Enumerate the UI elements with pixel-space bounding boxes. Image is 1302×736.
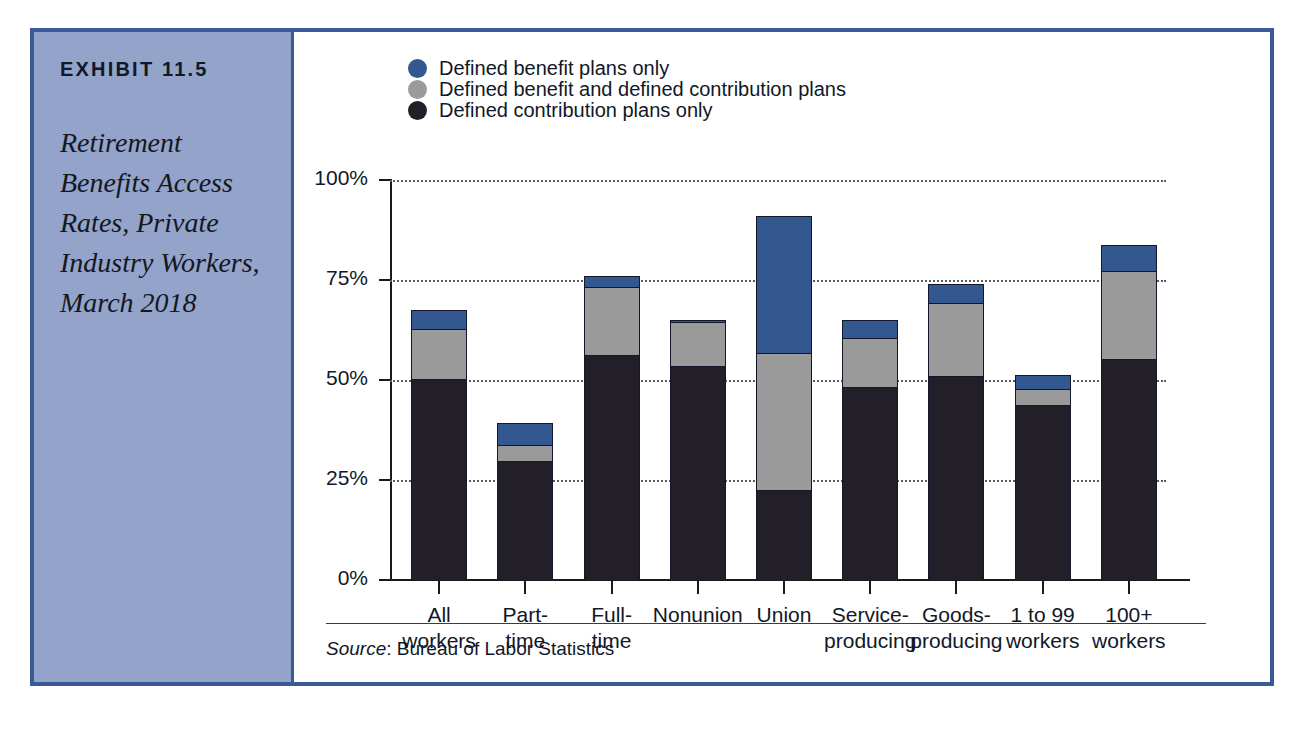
bar-segment-dc: [757, 490, 811, 580]
exhibit-frame: EXHIBIT 11.5 Retirement Benefits Access …: [30, 28, 1274, 686]
bar-segment-db: [412, 311, 466, 329]
y-tick-label: 75%: [298, 266, 368, 290]
bars-layer: [390, 180, 1166, 580]
bar-goods-producing[interactable]: [928, 284, 984, 580]
exhibit-title: Retirement Benefits Access Rates, Privat…: [60, 123, 267, 323]
x-label-line: 100+: [1054, 602, 1204, 628]
source-divider: [326, 623, 1206, 625]
legend-label: Defined benefit plans only: [439, 57, 669, 80]
bar-segment-db: [498, 424, 552, 445]
x-tick-mark: [611, 580, 613, 594]
bar-segment-both: [498, 445, 552, 461]
y-tick-label: 100%: [298, 166, 368, 190]
plot-area: 0%25%50%75%100% AllworkersPart-timeFull-…: [390, 180, 1166, 580]
bar-segment-dc: [585, 355, 639, 580]
bar-segment-db: [585, 277, 639, 287]
y-tick-mark: [379, 179, 390, 181]
bar-segment-db: [757, 217, 811, 353]
bar-segment-db: [1016, 376, 1070, 389]
exhibit-sidebar: EXHIBIT 11.5 Retirement Benefits Access …: [34, 32, 294, 682]
x-tick-mark: [783, 580, 785, 594]
bar-1-to-99-workers[interactable]: [1015, 375, 1071, 580]
legend-label: Defined benefit and defined contribution…: [439, 78, 846, 101]
bar-service-producing[interactable]: [842, 320, 898, 580]
x-label-line: workers: [1054, 628, 1204, 654]
bar-segment-both: [929, 303, 983, 376]
bar-segment-both: [757, 353, 811, 490]
legend-swatch-blue-circle-icon: [408, 59, 427, 78]
source-text: Bureau of Labor Statistics: [397, 638, 615, 659]
legend-label: Defined contribution plans only: [439, 99, 713, 122]
x-tick-mark: [697, 580, 699, 594]
source-label: Source: [326, 638, 386, 659]
bar-segment-dc: [412, 379, 466, 580]
legend-item-defined-contribution-only: Defined contribution plans only: [408, 100, 846, 121]
x-tick-mark: [869, 580, 871, 594]
legend-item-defined-benefit-only: Defined benefit plans only: [408, 58, 846, 79]
x-tick-mark: [955, 580, 957, 594]
y-tick-label: 25%: [298, 466, 368, 490]
bar-part-time[interactable]: [497, 423, 553, 580]
bar-segment-db: [929, 285, 983, 303]
bar-segment-db: [843, 321, 897, 338]
source-separator: :: [386, 638, 397, 659]
x-axis-label-100-workers: 100+workers: [1054, 602, 1204, 654]
bar-segment-db: [1102, 246, 1156, 271]
y-tick-mark: [379, 379, 390, 381]
legend-swatch-black-circle-icon: [408, 101, 427, 120]
y-tick-label: 0%: [298, 566, 368, 590]
bar-segment-both: [671, 322, 725, 366]
bar-segment-both: [1102, 271, 1156, 360]
bar-100-workers[interactable]: [1101, 245, 1157, 580]
bar-all-workers[interactable]: [411, 310, 467, 580]
bar-union[interactable]: [756, 216, 812, 580]
x-tick-mark: [1128, 580, 1130, 594]
bar-segment-dc: [671, 366, 725, 580]
bar-segment-dc: [1102, 359, 1156, 580]
chart-panel: Defined benefit plans only Defined benef…: [294, 32, 1270, 682]
bar-segment-both: [843, 338, 897, 387]
chart-legend: Defined benefit plans only Defined benef…: [408, 58, 846, 121]
bar-full-time[interactable]: [584, 276, 640, 580]
exhibit-number: EXHIBIT 11.5: [60, 58, 267, 81]
y-tick-mark: [379, 479, 390, 481]
bar-segment-dc: [929, 376, 983, 581]
y-tick-mark: [379, 279, 390, 281]
legend-swatch-gray-circle-icon: [408, 80, 427, 99]
x-tick-mark: [438, 580, 440, 594]
x-tick-mark: [1042, 580, 1044, 594]
legend-item-defined-benefit-and-contribution: Defined benefit and defined contribution…: [408, 79, 846, 100]
bar-segment-both: [412, 329, 466, 379]
y-tick-mark: [379, 579, 390, 581]
bar-segment-dc: [498, 461, 552, 580]
y-tick-label: 50%: [298, 366, 368, 390]
bar-segment-both: [585, 287, 639, 355]
x-tick-mark: [524, 580, 526, 594]
bar-segment-both: [1016, 389, 1070, 405]
bar-segment-dc: [1016, 405, 1070, 580]
source-note: Source: Bureau of Labor Statistics: [326, 638, 614, 660]
bar-segment-dc: [843, 387, 897, 580]
bar-nonunion[interactable]: [670, 320, 726, 580]
